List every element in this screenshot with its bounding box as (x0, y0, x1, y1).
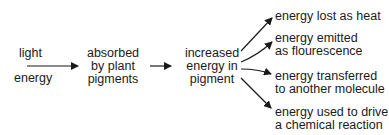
arrow-to-fluorescence (241, 42, 272, 62)
step-absorbed-line3: pigments (83, 73, 143, 86)
step-absorbed: absorbed by plant pigments (83, 47, 143, 86)
outcome-heat: energy lost as heat (275, 10, 381, 23)
outcome-chemical-reaction: energy used to drive a chemical reaction (275, 106, 388, 132)
outcome-chemical-line2: a chemical reaction (275, 119, 388, 132)
step-increased-energy: increased energy in pigment (181, 47, 243, 86)
input-label-light: light (19, 47, 42, 60)
input-label-energy: energy (14, 72, 52, 85)
arrow-to-transfer (241, 69, 271, 74)
outcome-transfer-line2: to another molecule (275, 83, 385, 96)
outcome-fluorescence: energy emitted as flourescence (275, 32, 363, 58)
outcome-transfer: energy transferred to another molecule (275, 70, 385, 96)
arrow-to-chemical-reaction (241, 78, 271, 108)
step-increased-line3: pigment (181, 73, 243, 86)
outcome-fluorescence-line2: as flourescence (275, 45, 363, 58)
outcome-heat-line1: energy lost as heat (275, 10, 381, 23)
